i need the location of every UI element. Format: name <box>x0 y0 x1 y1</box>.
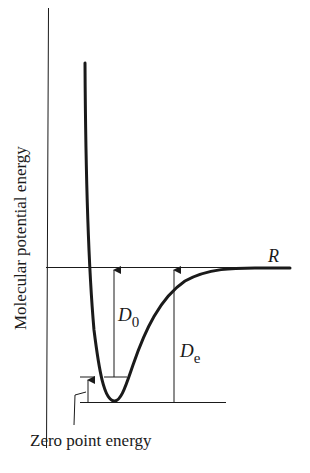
de-label: De <box>179 340 201 366</box>
zpe-leader-line <box>74 392 86 425</box>
potential-energy-diagram: Molecular potential energy R D0 De Zero … <box>0 0 310 473</box>
zero-point-energy-label: Zero point energy <box>30 431 152 450</box>
d0-label: D0 <box>117 304 139 330</box>
y-axis <box>47 8 49 448</box>
r-axis-label: R <box>267 246 279 266</box>
y-axis-label: Molecular potential energy <box>11 146 30 330</box>
